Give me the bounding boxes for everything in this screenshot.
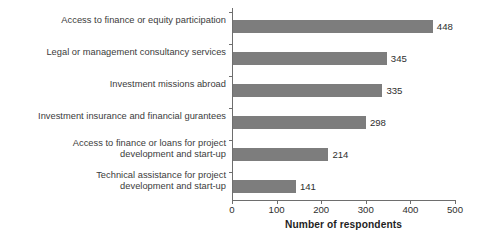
bar-value-0: 448 xyxy=(437,20,453,33)
x-axis-tick-label-0: 0 xyxy=(229,204,234,215)
category-label-1: Legal or management consultancy services xyxy=(46,47,226,58)
bar-0 xyxy=(233,20,433,33)
bar-value-1: 345 xyxy=(391,52,407,65)
plot-area: 448 345 335 298 214 141 0 100 200 300 40… xyxy=(232,8,455,200)
bar-1 xyxy=(233,52,387,65)
category-label-2: Investment missions abroad xyxy=(110,79,226,90)
bar-5 xyxy=(233,180,296,193)
bar-3 xyxy=(233,116,366,129)
y-axis-tick xyxy=(229,108,233,109)
category-label-5: Technical assistance for project develop… xyxy=(96,170,226,192)
category-label-4: Access to finance or loans for project d… xyxy=(73,138,226,160)
x-axis-tick-label-4: 400 xyxy=(402,204,418,215)
bar-4 xyxy=(233,148,328,161)
y-axis-tick xyxy=(229,172,233,173)
y-axis-tick xyxy=(229,76,233,77)
bar-value-2: 335 xyxy=(386,84,402,97)
y-axis-tick xyxy=(229,140,233,141)
category-label-0: Access to finance or equity participatio… xyxy=(61,15,226,26)
x-axis-title: Number of respondents xyxy=(232,219,455,230)
bar-chart: Access to finance or equity participatio… xyxy=(0,0,479,245)
x-axis-tick-label-1: 100 xyxy=(269,204,285,215)
category-label-3: Investment insurance and financial guran… xyxy=(38,111,226,122)
x-axis-tick-label-2: 200 xyxy=(313,204,329,215)
x-axis-line xyxy=(232,200,455,201)
bar-value-4: 214 xyxy=(332,148,348,161)
x-axis-tick-label-3: 300 xyxy=(358,204,374,215)
x-axis-tick-label-5: 500 xyxy=(447,204,463,215)
bar-value-3: 298 xyxy=(370,116,386,129)
bar-value-5: 141 xyxy=(300,180,316,193)
y-axis-tick xyxy=(229,12,233,13)
bar-2 xyxy=(233,84,382,97)
y-axis-tick xyxy=(229,44,233,45)
